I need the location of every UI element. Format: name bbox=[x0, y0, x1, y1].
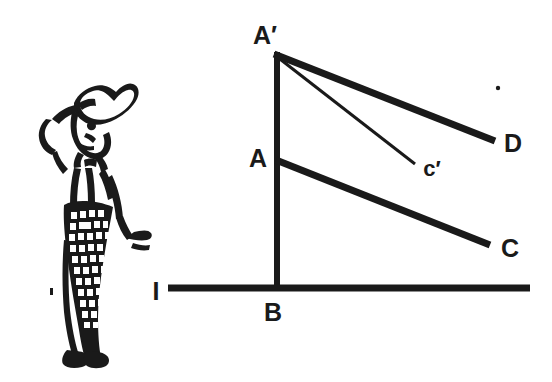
collar bbox=[74, 152, 84, 168]
segment-a-c bbox=[276, 160, 490, 245]
face-detail-nose bbox=[84, 133, 96, 143]
ink-speck bbox=[496, 86, 500, 90]
collar-right bbox=[95, 155, 108, 172]
torso-left bbox=[70, 168, 81, 206]
raised-arm bbox=[39, 119, 56, 155]
shirt-front bbox=[85, 168, 95, 203]
man-illustration bbox=[39, 83, 152, 368]
segment-a-prime-d bbox=[274, 54, 495, 141]
face-detail-eye bbox=[87, 122, 96, 131]
label-c-prime: c′ bbox=[423, 156, 441, 181]
label-b: B bbox=[264, 298, 282, 326]
illustration-speck bbox=[50, 288, 53, 295]
tie-knot bbox=[84, 159, 97, 168]
geometry-figure: A′ A B C c′ D I bbox=[0, 0, 552, 382]
upper-arm-down bbox=[52, 151, 68, 174]
label-a: A bbox=[249, 144, 267, 172]
figure-canvas: A′ A B C c′ D I bbox=[0, 0, 552, 382]
right-shoe bbox=[84, 351, 109, 368]
label-c: C bbox=[501, 234, 519, 262]
diagram-lines bbox=[168, 52, 530, 289]
label-a-prime: A′ bbox=[253, 21, 277, 49]
label-d: D bbox=[504, 129, 522, 157]
segment-a-prime-c-prime bbox=[276, 56, 415, 164]
label-i: I bbox=[153, 277, 160, 305]
